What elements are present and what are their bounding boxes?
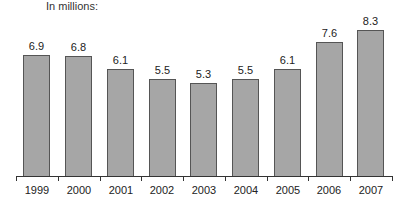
x-axis-tick xyxy=(392,176,393,181)
bar-2002 xyxy=(149,79,176,176)
bar-2003 xyxy=(190,83,217,176)
bar-2007 xyxy=(357,30,384,176)
value-label: 6.9 xyxy=(17,40,57,52)
bar-2004 xyxy=(232,79,259,176)
bar-2005 xyxy=(274,69,301,176)
value-label: 5.5 xyxy=(143,64,183,76)
bar-1999 xyxy=(23,55,50,176)
x-axis-line xyxy=(16,176,392,177)
value-label: 6.1 xyxy=(101,54,141,66)
bar-2000 xyxy=(65,56,92,176)
x-tick-label: 2002 xyxy=(141,184,183,196)
x-tick-label: 2003 xyxy=(183,184,225,196)
value-label: 8.3 xyxy=(351,15,391,27)
bar-2001 xyxy=(107,69,134,176)
value-label: 5.3 xyxy=(184,68,224,80)
x-tick-label: 2001 xyxy=(100,184,142,196)
x-tick-label: 1999 xyxy=(16,184,58,196)
value-label: 7.6 xyxy=(310,27,350,39)
bar-chart: In millions: 6.919996.820006.120015.5200… xyxy=(0,0,410,208)
x-tick-label: 2000 xyxy=(58,184,100,196)
chart-subtitle: In millions: xyxy=(46,0,98,12)
x-tick-label: 2006 xyxy=(308,184,350,196)
value-label: 6.8 xyxy=(59,41,99,53)
value-label: 6.1 xyxy=(268,54,308,66)
bar-2006 xyxy=(316,42,343,176)
value-label: 5.5 xyxy=(226,64,266,76)
x-tick-label: 2005 xyxy=(267,184,309,196)
x-tick-label: 2004 xyxy=(225,184,267,196)
x-tick-label: 2007 xyxy=(350,184,392,196)
